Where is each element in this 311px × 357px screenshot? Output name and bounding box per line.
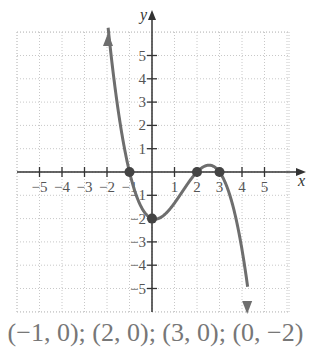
svg-text:1: 1 [139,141,147,157]
svg-text:2: 2 [139,117,147,133]
svg-text:−2: −2 [99,179,115,195]
y-axis-label: y [138,6,148,24]
svg-text:4: 4 [238,179,246,195]
svg-text:−4: −4 [130,257,146,273]
svg-text:−5: −5 [32,179,48,195]
svg-text:5: 5 [139,48,147,64]
points-caption: (−1, 0); (2, 0); (3, 0); (0, −2) [0,318,311,348]
svg-text:3: 3 [216,179,224,195]
function-graph: −5−4−3−2−11234554321−1−2−3−4−5 x y [0,0,311,320]
svg-text:3: 3 [139,94,147,110]
x-axis-label: x [297,172,305,189]
svg-text:5: 5 [261,179,269,195]
svg-text:4: 4 [139,71,147,87]
svg-text:2: 2 [193,179,201,195]
svg-text:−5: −5 [130,281,146,297]
svg-text:1: 1 [171,179,179,195]
svg-text:−3: −3 [130,234,146,250]
svg-text:−3: −3 [77,179,93,195]
svg-text:−4: −4 [54,179,70,195]
